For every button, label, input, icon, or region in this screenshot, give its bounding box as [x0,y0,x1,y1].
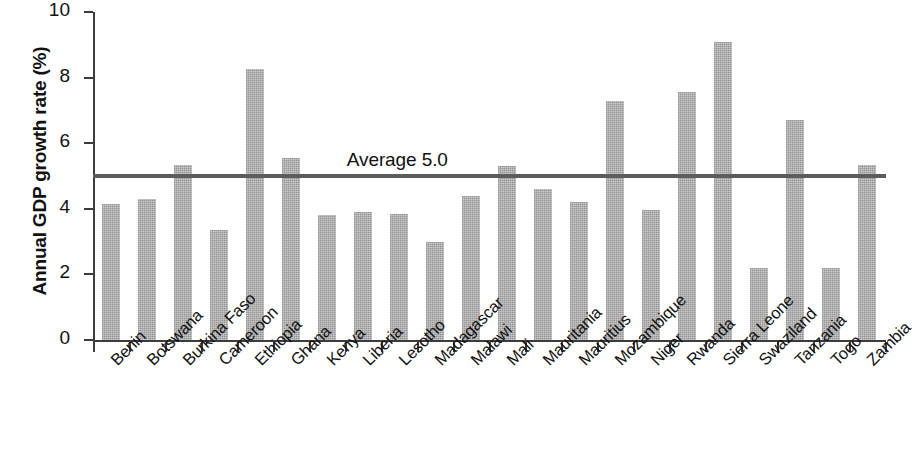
y-tick: 0 [84,339,93,341]
x-tick [93,342,95,352]
y-tick: 4 [84,208,93,210]
y-tick-label: 2 [59,261,70,283]
bar [606,101,623,340]
average-reference-line [93,174,886,178]
bar [714,42,731,340]
bar [282,158,299,340]
y-tick-label: 10 [49,0,70,21]
y-tick: 10 [84,11,93,13]
y-tick-label: 4 [59,196,70,218]
plot-area: 0246810 Average 5.0 [93,12,885,340]
y-tick: 8 [84,77,93,79]
y-tick: 2 [84,273,93,275]
bar [138,199,155,340]
bar [534,189,551,340]
y-tick: 6 [84,142,93,144]
bar [498,166,515,340]
y-axis-title: Annual GDP growth rate (%) [29,21,51,321]
bar [858,165,875,340]
average-reference-label: Average 5.0 [347,149,448,171]
bar [102,204,119,340]
y-tick-label: 6 [59,130,70,152]
y-tick-label: 8 [59,65,70,87]
y-tick-label: 0 [59,327,70,349]
bar [354,212,371,340]
